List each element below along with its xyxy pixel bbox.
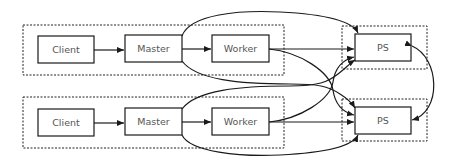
worker-2-label: Worker bbox=[224, 116, 258, 127]
edge-master2-ps2-bottom bbox=[182, 135, 358, 155]
ps-2-label: PS bbox=[377, 115, 389, 126]
worker-1-node[interactable]: Worker bbox=[212, 35, 269, 62]
client-2-node[interactable]: Client bbox=[38, 109, 94, 136]
worker-2-node[interactable]: Worker bbox=[212, 108, 269, 135]
edge-worker1-ps2 bbox=[269, 49, 354, 115]
edge-master1-ps2 bbox=[182, 61, 355, 108]
edge-master2-ps1 bbox=[182, 60, 355, 109]
row-1-group: Client Master Worker PS bbox=[23, 25, 427, 75]
distributed-architecture-diagram: Client Master Worker PS Client Master Wo… bbox=[0, 0, 456, 164]
edge-ps1-ps2-bidirectional bbox=[412, 46, 434, 120]
edge-worker2-ps1 bbox=[269, 57, 354, 122]
worker-1-label: Worker bbox=[224, 43, 258, 54]
ps-1-label: PS bbox=[377, 42, 389, 53]
master-1-label: Master bbox=[137, 43, 170, 54]
client-2-label: Client bbox=[52, 117, 80, 128]
master-2-label: Master bbox=[137, 116, 170, 127]
client-1-node[interactable]: Client bbox=[38, 36, 94, 63]
ps-1-node[interactable]: PS bbox=[355, 34, 411, 61]
row-2-group: Client Master Worker PS bbox=[23, 97, 427, 148]
ps-2-node[interactable]: PS bbox=[355, 107, 411, 134]
master-1-node[interactable]: Master bbox=[125, 35, 182, 62]
client-1-label: Client bbox=[52, 44, 80, 55]
edge-master1-ps1-top bbox=[182, 12, 358, 36]
master-2-node[interactable]: Master bbox=[125, 108, 182, 135]
